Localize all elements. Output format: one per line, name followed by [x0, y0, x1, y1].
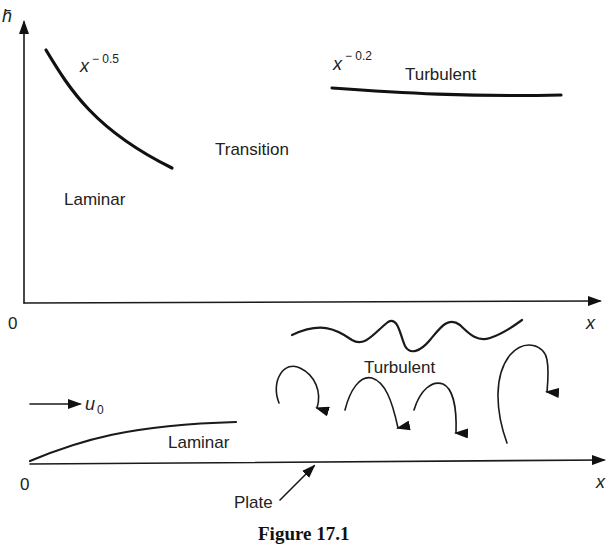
region-turbulent-label: Turbulent — [405, 65, 476, 84]
y-axis-label: h̄ — [2, 6, 12, 26]
region-transition-label: Transition — [215, 140, 289, 159]
laminar-curve — [46, 50, 172, 168]
turbulent-wavy-edge — [292, 320, 522, 351]
turbulent-curve — [332, 88, 561, 96]
eddy-arrow-1 — [276, 366, 318, 408]
eddy-arrow-2 — [345, 378, 398, 428]
laminar-exponent-base: x — [79, 56, 90, 76]
figure-diagram: h̄ 0 x x − 0.5 x − 0.2 Laminar Transitio… — [0, 0, 609, 549]
turbulent-exponent-base: x — [332, 54, 343, 74]
eddy-arrow-3 — [414, 383, 456, 433]
origin-label: 0 — [8, 314, 17, 333]
bottom-origin-label: 0 — [20, 475, 29, 494]
region-laminar-label: Laminar — [64, 190, 126, 209]
figure-caption: Figure 17.1 — [258, 523, 349, 544]
freestream-label: u — [85, 394, 95, 414]
freestream-subscript: 0 — [97, 403, 104, 417]
turbulent-exponent: − 0.2 — [345, 49, 372, 63]
top-plot: h̄ 0 x x − 0.5 x − 0.2 Laminar Transitio… — [2, 6, 600, 333]
laminar-exponent: − 0.5 — [92, 52, 119, 66]
bottom-sketch: u 0 Laminar 0 x Plate Turbulent — [20, 320, 606, 512]
plate-pointer — [280, 466, 314, 500]
bottom-region-turbulent-label: Turbulent — [364, 358, 435, 377]
bottom-x-axis-label: x — [595, 472, 606, 492]
eddy-arrow-4 — [498, 345, 548, 443]
bottom-region-laminar-label: Laminar — [168, 433, 230, 452]
plate-axis — [30, 460, 604, 464]
plate-label: Plate — [234, 493, 273, 512]
x-axis-label: x — [585, 313, 596, 333]
x-axis — [24, 301, 600, 303]
